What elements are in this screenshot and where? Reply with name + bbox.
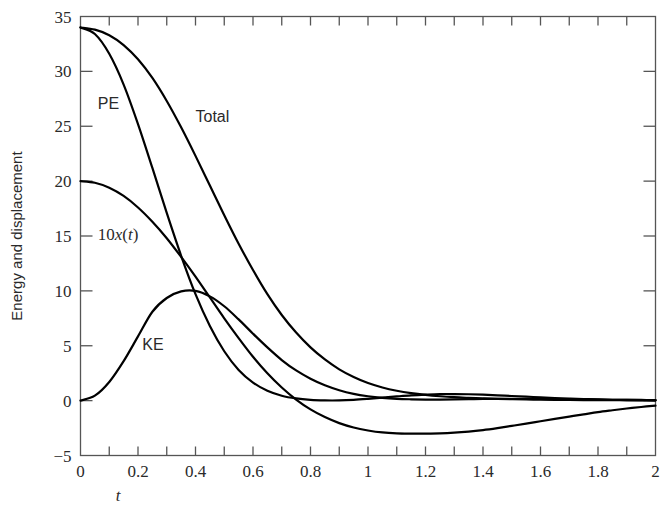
y-tick-label: 10 — [55, 282, 72, 301]
curve-label-total: Total — [196, 108, 230, 125]
y-tick-label: 15 — [55, 227, 72, 246]
y-axis-title: Energy and displacement — [8, 151, 25, 321]
curve-label-10x-t: 10x(t) — [98, 225, 139, 244]
y-tick-label: −5 — [53, 447, 71, 466]
curve-label-pe: PE — [98, 95, 119, 112]
x-tick-label: 0.4 — [185, 462, 207, 481]
y-tick-label: 0 — [63, 392, 72, 411]
energy-displacement-line-chart: 00.20.40.60.811.21.41.61.82 −50510152025… — [0, 0, 671, 513]
x-tick-label: 1.4 — [472, 462, 494, 481]
x-tick-label: 0.6 — [242, 462, 263, 481]
chart-background — [0, 0, 671, 513]
x-tick-label: 1.6 — [530, 462, 551, 481]
curve-label-ke: KE — [142, 336, 163, 353]
x-tick-label: 1.2 — [415, 462, 436, 481]
y-tick-label: 35 — [55, 8, 72, 27]
x-tick-label: 0.2 — [127, 462, 148, 481]
label-part-paren-close: ) — [133, 225, 139, 244]
label-part-number: 10 — [98, 225, 115, 244]
x-tick-label: 2 — [651, 462, 660, 481]
y-tick-label: 30 — [55, 62, 72, 81]
chart-canvas: 00.20.40.60.811.21.41.61.82 −50510152025… — [0, 0, 671, 513]
x-tick-label: 0 — [76, 462, 85, 481]
x-tick-label: 0.8 — [300, 462, 321, 481]
x-tick-label: 1 — [364, 462, 373, 481]
y-tick-label: 25 — [55, 117, 72, 136]
y-tick-label: 5 — [63, 337, 72, 356]
x-tick-label: 1.8 — [587, 462, 608, 481]
y-tick-label: 20 — [55, 172, 72, 191]
